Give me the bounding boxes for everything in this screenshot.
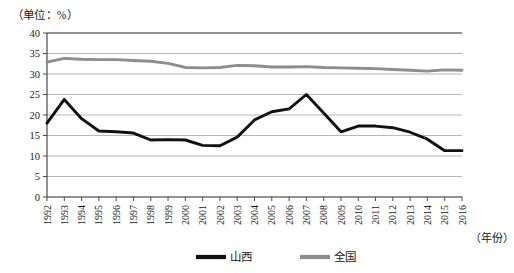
x-tick-label-2012: 2012 (387, 205, 398, 225)
series-line-national (47, 58, 462, 71)
x-tick-label-2008: 2008 (318, 205, 329, 225)
x-tick-label-2015: 2015 (439, 205, 450, 225)
x-tick-label-1993: 1993 (59, 205, 70, 225)
x-tick-label-1995: 1995 (93, 205, 104, 225)
y-tick-label-15: 15 (30, 130, 41, 141)
y-tick-label-10: 10 (30, 151, 41, 162)
legend-group: 山西全国 (196, 250, 356, 263)
legend-label-shanxi: 山西 (230, 251, 252, 263)
x-tick-label-2010: 2010 (353, 205, 364, 225)
x-tick-label-2009: 2009 (336, 205, 347, 225)
y-tick-label-35: 35 (30, 48, 41, 59)
x-tick-label-1997: 1997 (128, 205, 139, 225)
x-tick-label-2007: 2007 (301, 205, 312, 225)
y-tick-label-0: 0 (35, 192, 40, 203)
gridlines-group (47, 33, 462, 197)
x-tick-label-2014: 2014 (422, 205, 433, 225)
line-chart-plot: 0510152025303540 19921993199419951996199… (0, 0, 514, 273)
y-tick-label-30: 30 (30, 69, 41, 80)
y-tick-label-20: 20 (30, 110, 41, 121)
x-tick-label-1992: 1992 (42, 205, 53, 225)
x-tick-label-1999: 1999 (163, 205, 174, 225)
series-group (47, 58, 462, 150)
y-tick-label-5: 5 (35, 171, 40, 182)
x-tick-label-2006: 2006 (284, 205, 295, 225)
x-tick-label-2011: 2011 (370, 205, 381, 225)
x-tick-label-2005: 2005 (266, 205, 277, 225)
series-line-shanxi (47, 95, 462, 151)
x-tick-label-2002: 2002 (215, 205, 226, 225)
x-tick-label-2013: 2013 (405, 205, 416, 225)
x-tick-label-1994: 1994 (76, 205, 87, 225)
x-tick-label-2003: 2003 (232, 205, 243, 225)
x-tick-label-2016: 2016 (457, 205, 468, 225)
x-tick-label-2004: 2004 (249, 205, 260, 225)
y-tick-label-40: 40 (30, 28, 41, 39)
legend-label-national: 全国 (334, 250, 356, 263)
x-axis-group: 1992199319941995199619971998199920002001… (42, 33, 468, 225)
x-tick-label-2000: 2000 (180, 205, 191, 225)
x-tick-label-1998: 1998 (145, 205, 156, 225)
x-tick-label-2001: 2001 (197, 205, 208, 225)
y-tick-label-25: 25 (30, 89, 41, 100)
chart-container: （单位：%） 0510152025303540 1992199319941995… (0, 0, 514, 273)
x-axis-label: （年份） (470, 231, 514, 244)
x-tick-label-1996: 1996 (111, 205, 122, 225)
y-axis-group: 0510152025303540 (30, 28, 48, 203)
